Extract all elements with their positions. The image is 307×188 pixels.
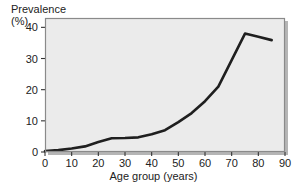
y-axis-tick-marks	[41, 27, 45, 152]
svg-text:20: 20	[92, 157, 104, 169]
x-axis-label: Age group (years)	[0, 170, 307, 182]
line-chart-plot: 0102030405060708090 010203040	[0, 0, 307, 188]
chart-figure: Prevalence (%) 0102030405060708090 01020…	[0, 0, 307, 188]
svg-text:30: 30	[26, 53, 38, 65]
svg-text:30: 30	[119, 157, 131, 169]
x-axis-tick-labels: 0102030405060708090	[42, 157, 291, 169]
svg-text:0: 0	[32, 146, 38, 158]
y-axis-tick-labels: 010203040	[26, 21, 38, 158]
svg-text:80: 80	[252, 157, 264, 169]
svg-text:90: 90	[279, 157, 291, 169]
svg-text:0: 0	[42, 157, 48, 169]
svg-text:10: 10	[66, 157, 78, 169]
svg-text:10: 10	[26, 115, 38, 127]
plot-area-background	[45, 18, 285, 152]
svg-text:60: 60	[199, 157, 211, 169]
svg-text:40: 40	[146, 157, 158, 169]
svg-text:50: 50	[172, 157, 184, 169]
svg-text:40: 40	[26, 21, 38, 33]
svg-text:70: 70	[226, 157, 238, 169]
svg-text:20: 20	[26, 84, 38, 96]
